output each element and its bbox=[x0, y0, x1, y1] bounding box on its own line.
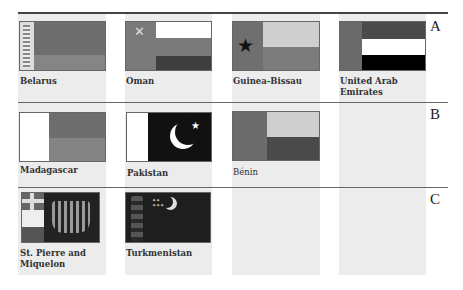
star-icon: ★ bbox=[191, 121, 200, 131]
ornament-icon bbox=[23, 25, 30, 68]
ship-icon bbox=[52, 201, 90, 233]
section-divider-b-c bbox=[18, 187, 448, 188]
label-line-2: Emirates bbox=[340, 87, 430, 98]
flag-label-benin: Bénin bbox=[233, 167, 323, 178]
flag-label-madagascar: Madagascar bbox=[20, 165, 110, 176]
label-line-1: St. Pierre and bbox=[20, 248, 110, 259]
flag-label-st-pierre-and-miquelon: St. Pierre and Miquelon bbox=[20, 248, 110, 270]
flag-madagascar bbox=[19, 112, 106, 162]
flag-pakistan: ★ bbox=[126, 112, 212, 162]
flag-united-arab-emirates bbox=[339, 21, 426, 71]
carpet-band-icon bbox=[131, 196, 143, 241]
flag-label-belarus: Belarus bbox=[20, 76, 110, 87]
flag-label-oman: Oman bbox=[126, 76, 216, 87]
section-divider-top bbox=[18, 12, 448, 14]
flag-guinea-bissau: ★ bbox=[232, 21, 320, 71]
section-letter-c: C bbox=[430, 191, 440, 208]
flag-oman: ✕ bbox=[125, 21, 212, 71]
label-line-1: United Arab bbox=[340, 76, 430, 87]
flag-belarus bbox=[19, 21, 106, 71]
label-line-2: Miquelon bbox=[20, 259, 110, 270]
flag-turkmenistan: ✦✦✦✦✦ bbox=[125, 192, 211, 243]
emblem-icon: ✕ bbox=[134, 25, 145, 38]
section-letter-a: A bbox=[430, 18, 441, 35]
flag-label-guinea-bissau: Guinea-Bissau bbox=[233, 76, 323, 87]
flag-label-pakistan: Pakistan bbox=[127, 168, 217, 179]
flag-label-united-arab-emirates: United Arab Emirates bbox=[340, 76, 430, 98]
flag-st-pierre-and-miquelon bbox=[21, 192, 100, 243]
star-icon: ★ bbox=[237, 36, 254, 55]
section-letter-b: B bbox=[430, 106, 440, 123]
flag-benin bbox=[232, 111, 320, 161]
stars-icon: ✦✦✦✦✦ bbox=[152, 198, 164, 208]
section-divider-a-b bbox=[18, 102, 448, 103]
flag-label-turkmenistan: Turkmenistan bbox=[126, 248, 216, 259]
